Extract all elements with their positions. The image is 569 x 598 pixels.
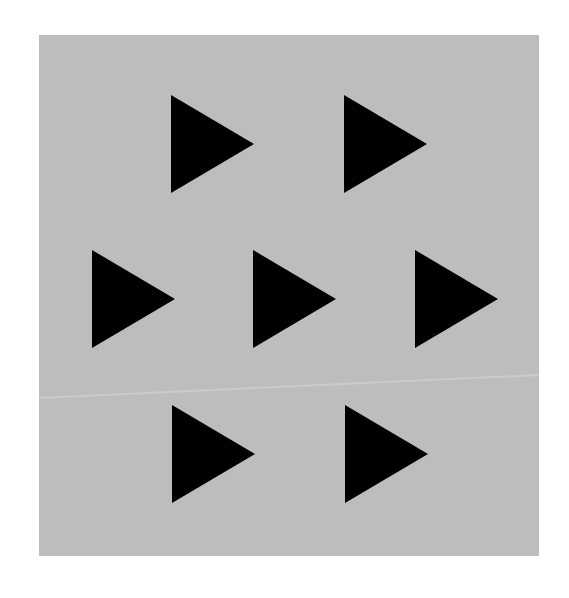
triangle-icon: [344, 95, 427, 193]
gray-panel: [39, 35, 539, 556]
triangle-icon: [172, 405, 255, 503]
image-stage: [0, 0, 569, 598]
triangle-icon: [415, 250, 498, 348]
triangle-icon: [171, 95, 254, 193]
triangle-icon: [253, 250, 336, 348]
triangle-icon: [345, 405, 428, 503]
triangle-icon: [92, 250, 175, 348]
